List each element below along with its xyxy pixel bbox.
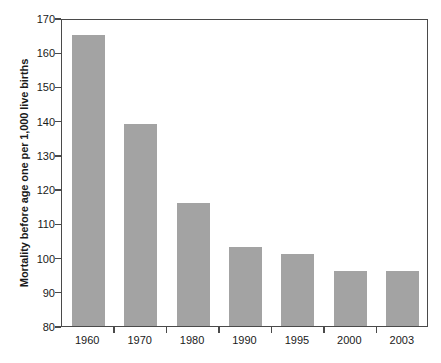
y-tick-label: 80 [0, 320, 55, 334]
y-tick-label: 140 [0, 115, 55, 129]
bar [281, 254, 314, 326]
x-tick-label: 2000 [323, 333, 375, 347]
y-tick-label: 170 [0, 12, 55, 26]
y-tick-label: 110 [0, 217, 55, 231]
plot-area [61, 19, 428, 327]
x-tick-label: 1960 [61, 333, 113, 347]
x-tick-label: 1990 [218, 333, 270, 347]
x-tick-label: 1995 [271, 333, 323, 347]
x-tick-label: 1980 [166, 333, 218, 347]
bar [334, 271, 367, 326]
y-tick-label: 160 [0, 46, 55, 60]
y-tick-label: 150 [0, 80, 55, 94]
y-tick-label: 90 [0, 286, 55, 300]
bar [124, 124, 157, 326]
x-tick-label: 1970 [113, 333, 165, 347]
y-tick-label: 100 [0, 252, 55, 266]
y-axis-title: Mortality before age one per 1,000 live … [16, 19, 32, 327]
bar [386, 271, 419, 326]
bar [229, 247, 262, 326]
bar [177, 203, 210, 326]
y-tick-label: 130 [0, 149, 55, 163]
bar [72, 35, 105, 326]
x-tick-label: 2003 [376, 333, 428, 347]
bar-chart: Mortality before age one per 1,000 live … [0, 0, 441, 363]
y-tick-label: 120 [0, 183, 55, 197]
